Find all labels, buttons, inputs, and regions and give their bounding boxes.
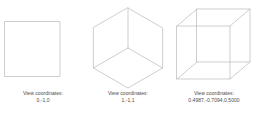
- panel-cube-perspective: View coordinates: 0.4987,-0.7094,0.5000: [168, 0, 260, 117]
- hexagon-shape-area: [85, 0, 171, 90]
- cube-shape-area: [168, 0, 260, 90]
- panel-hexagon-corner-on: View coordinates: 1,-1,1: [85, 0, 171, 117]
- caption-coordinates-0: 0,-1,0: [36, 97, 49, 104]
- hexagon-wireframe-icon: [85, 0, 171, 90]
- caption-label-0: View coordinates:: [23, 90, 63, 97]
- cube-wireframe-icon: [168, 0, 260, 90]
- caption-coordinates-2: 0.4987,-0.7094,0.5000: [188, 97, 239, 104]
- caption-label-2: View coordinates:: [194, 90, 234, 97]
- panel-square-face-on: View coordinates: 0,-1,0: [0, 0, 86, 117]
- caption-label-1: View coordinates:: [108, 90, 148, 97]
- square-wireframe-icon: [0, 0, 86, 90]
- view-coordinates-figure: View coordinates: 0,-1,0 View coordinate…: [0, 0, 260, 117]
- caption-coordinates-1: 1,-1,1: [121, 97, 134, 104]
- square-shape-area: [0, 0, 86, 90]
